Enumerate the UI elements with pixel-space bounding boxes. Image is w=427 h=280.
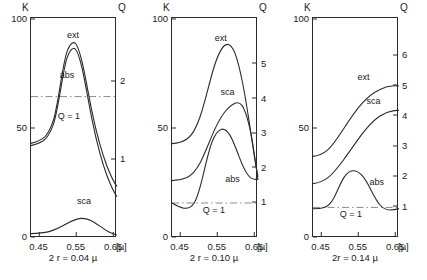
curve-label-abs: abs <box>225 174 240 184</box>
panel-caption: 2 r = 0.10 µ <box>171 252 257 263</box>
curve-abs <box>313 171 399 210</box>
curve-ext <box>313 86 399 157</box>
k-axis-label: K <box>304 2 311 13</box>
x-tick-0.55: 0.55 <box>67 236 86 252</box>
k-tick-100: 100 <box>152 13 172 24</box>
curve-label-ext: ext <box>67 30 79 40</box>
k-tick-100: 100 <box>293 13 313 24</box>
curve-label-ext: ext <box>357 72 369 82</box>
q1-annotation: Q = 1 <box>340 209 362 219</box>
plot-area: 0 50 100 1 2 0.45 0.55 0.65 [µ] ext abs … <box>30 17 116 237</box>
k-axis-label: K <box>22 2 29 13</box>
x-tick-0.45: 0.45 <box>311 236 330 252</box>
panel-0.04: K Q 0 50 100 1 2 0.45 0.55 0.65 [µ] ext … <box>0 0 142 280</box>
panel-caption: 2 r = 0.04 µ <box>30 252 116 263</box>
curve-label-sca: sca <box>220 87 234 97</box>
x-axis-unit: [µ] <box>115 236 127 252</box>
curve-label-abs: abs <box>60 70 75 80</box>
curve-label-ext: ext <box>215 33 227 43</box>
panel-0.10: K Q 0 50 100 1 2 3 4 5 0.45 0.55 0.65 [µ… <box>141 0 283 280</box>
panel-0.14: K Q 0 50 100 1 2 3 4 5 6 0.45 0.55 0.65 … <box>282 0 424 280</box>
panel-caption: 2r = 0.14 µ <box>312 252 398 263</box>
q1-annotation: Q = 1 <box>58 111 80 121</box>
x-tick-0.45: 0.45 <box>170 236 189 252</box>
curves-svg <box>313 18 399 238</box>
x-axis-unit: [µ] <box>397 236 409 252</box>
k-tick-50: 50 <box>16 122 31 133</box>
q-axis-label: Q <box>259 2 267 13</box>
curve-sca <box>31 218 117 235</box>
q1-annotation: Q = 1 <box>203 205 225 215</box>
x-tick-0.55: 0.55 <box>349 236 368 252</box>
q-axis-label: Q <box>118 2 126 13</box>
curves-svg <box>31 18 117 238</box>
curve-label-sca: sca <box>366 96 380 106</box>
curve-sca <box>313 110 399 183</box>
curve-abs <box>172 129 258 208</box>
plot-area: 0 50 100 1 2 3 4 5 6 0.45 0.55 0.65 [µ] … <box>312 17 398 237</box>
k-tick-50: 50 <box>298 122 313 133</box>
k-tick-50: 50 <box>157 122 172 133</box>
curve-label-sca: sca <box>77 196 91 206</box>
curve-label-abs: abs <box>370 177 385 187</box>
k-tick-100: 100 <box>11 13 31 24</box>
x-axis-unit: [µ] <box>256 236 268 252</box>
figure-extinction-absorption-scattering: K Q 0 50 100 1 2 0.45 0.55 0.65 [µ] ext … <box>0 0 427 280</box>
q-axis-label: Q <box>400 2 408 13</box>
plot-area: 0 50 100 1 2 3 4 5 0.45 0.55 0.65 [µ] ex… <box>171 17 257 237</box>
x-tick-0.55: 0.55 <box>208 236 227 252</box>
x-tick-0.45: 0.45 <box>29 236 48 252</box>
k-axis-label: K <box>163 2 170 13</box>
curve-sca <box>172 103 258 181</box>
